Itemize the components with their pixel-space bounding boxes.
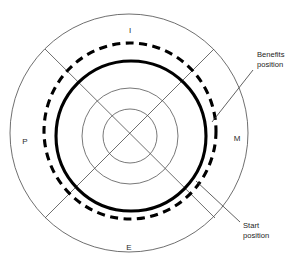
- circle-diagram-svg: I M E P Benefits position Start position: [0, 0, 295, 270]
- inner-ring-mid: [82, 88, 178, 184]
- start-position-leader-line: [196, 181, 240, 222]
- quadrant-label-right: M: [234, 134, 241, 143]
- start-position-label-line1: Start: [243, 221, 260, 230]
- benefits-position-label-line1: Benefits: [257, 50, 285, 59]
- quadrant-label-top: I: [129, 26, 131, 35]
- start-position-ring: [56, 61, 206, 211]
- benefits-position-ring: [44, 43, 216, 219]
- start-position-label-line2: position: [243, 231, 269, 240]
- quadrant-label-bottom: E: [126, 243, 131, 252]
- benefits-position-label-line2: position: [257, 60, 283, 69]
- inner-ring-core: [103, 109, 157, 163]
- quadrant-label-left: P: [22, 137, 27, 146]
- diagram-canvas: I M E P Benefits position Start position: [0, 0, 295, 270]
